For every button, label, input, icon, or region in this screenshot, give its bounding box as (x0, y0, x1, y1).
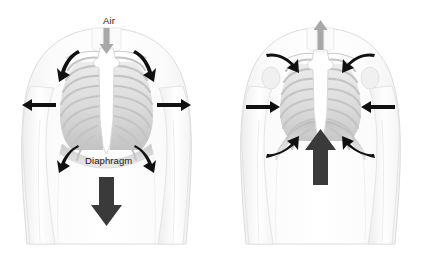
exhalation-panel (214, 0, 427, 256)
air-label: Air (103, 16, 115, 26)
inhalation-panel (0, 0, 213, 256)
breathing-mechanics-figure: Air Diaphragm (0, 0, 427, 256)
diaphragm-label: Diaphragm (85, 156, 132, 166)
